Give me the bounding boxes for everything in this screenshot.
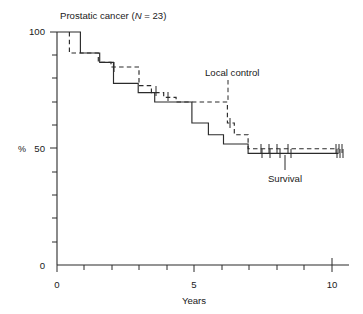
y-ticklabel-0: 0 bbox=[40, 260, 45, 271]
series-survival bbox=[57, 32, 343, 158]
chart-title: Prostatic cancer (N = 23) bbox=[60, 10, 166, 21]
annotation-local-control: Local control bbox=[205, 67, 259, 101]
x-ticklabel-10: 10 bbox=[327, 279, 338, 290]
chart-title-main: Prostatic cancer ( bbox=[60, 10, 135, 21]
chart-figure: Prostatic cancer (N = 23) bbox=[0, 0, 363, 314]
survival-step-line bbox=[57, 32, 339, 153]
y-ticklabel-50: 50 bbox=[34, 143, 45, 154]
x-ticklabel-0: 0 bbox=[54, 279, 59, 290]
chart-canvas: Prostatic cancer (N = 23) bbox=[0, 0, 363, 314]
chart-title-tail: = 23) bbox=[142, 10, 167, 21]
y-ticklabel-100: 100 bbox=[29, 26, 45, 37]
local-control-step-line bbox=[69, 32, 338, 149]
x-ticklabel-5: 5 bbox=[191, 279, 196, 290]
annotation-survival: Survival bbox=[268, 155, 302, 184]
axes-group bbox=[50, 32, 349, 272]
survival-label: Survival bbox=[268, 173, 302, 184]
chart-title-italic-n: N bbox=[135, 10, 142, 21]
local-control-label: Local control bbox=[205, 67, 259, 78]
y-axis-label: % bbox=[18, 144, 26, 154]
series-local-control bbox=[69, 32, 342, 153]
x-axis-label: Years bbox=[182, 295, 206, 306]
